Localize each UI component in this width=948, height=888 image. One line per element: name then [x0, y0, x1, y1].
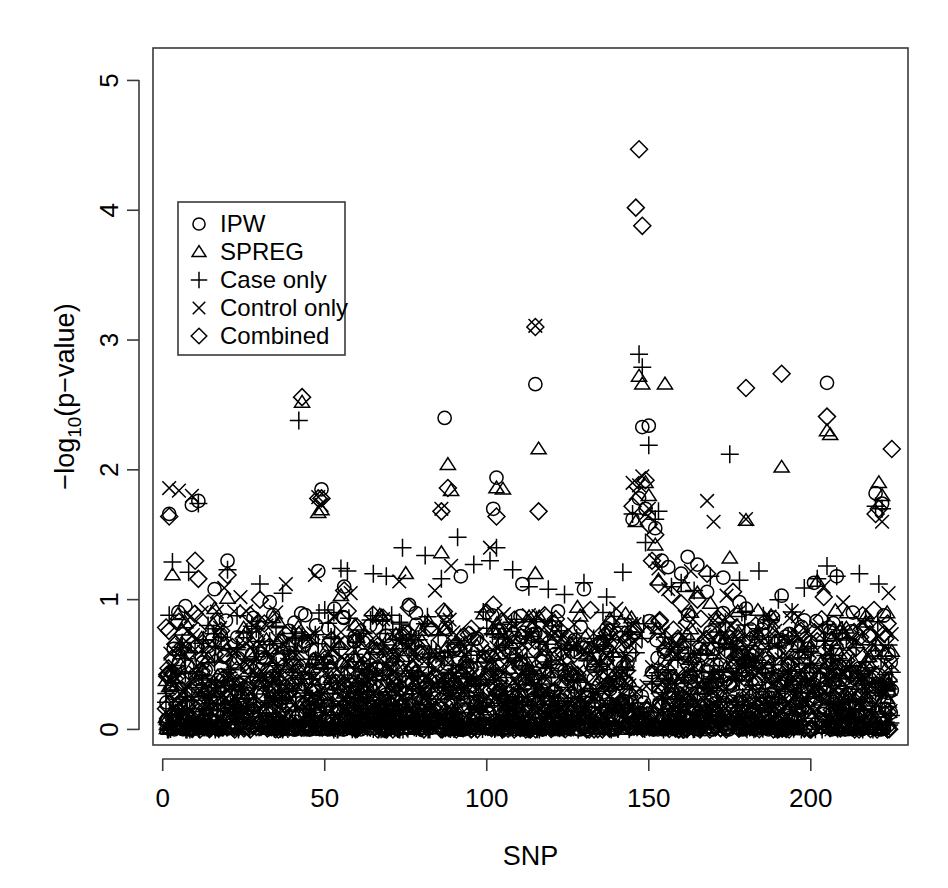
data-point-plus — [180, 563, 198, 581]
x-tick-label: 150 — [627, 783, 670, 813]
x-tick-label: 50 — [310, 783, 339, 813]
data-point-triangle — [657, 377, 672, 389]
data-point-triangle — [398, 567, 413, 579]
y-tick-label: 5 — [94, 73, 124, 87]
data-point-diamond — [634, 217, 651, 234]
legend: IPWSPREGCase onlyControl onlyCombined — [178, 202, 348, 355]
x-tick-label: 200 — [789, 783, 832, 813]
data-point-plus — [432, 570, 450, 588]
data-point-diamond — [815, 589, 832, 606]
data-point-diamond — [488, 508, 505, 525]
data-point-circle — [529, 378, 542, 391]
data-point-plus — [795, 579, 813, 597]
data-point-cross — [279, 577, 293, 591]
data-point-plus — [465, 556, 483, 574]
y-axis-title: −log10(p−value) — [50, 303, 85, 489]
data-point-cross — [428, 584, 442, 598]
x-axis-title: SNP — [503, 841, 559, 871]
data-point-diamond — [530, 503, 547, 520]
data-point-diamond — [158, 619, 175, 636]
data-point-cross — [444, 559, 458, 573]
data-point-triangle — [434, 546, 449, 558]
data-point-circle — [402, 598, 415, 611]
data-point-plus — [637, 534, 655, 552]
data-point-diamond — [527, 319, 544, 336]
data-point-cross — [642, 502, 656, 516]
data-point-triangle — [774, 460, 789, 472]
y-tick-label: 4 — [94, 203, 124, 217]
plot-canvas: 050100150200 012345 IPWSPREGCase onlyCon… — [0, 0, 948, 888]
data-point-circle — [516, 577, 529, 590]
data-point-circle — [884, 656, 897, 669]
data-point-plus — [640, 436, 658, 454]
data-point-diamond — [773, 365, 790, 382]
data-point-circle — [438, 411, 451, 424]
data-point-plus — [594, 603, 612, 621]
data-point-cross — [700, 494, 714, 508]
data-point-triangle — [635, 377, 650, 389]
data-point-triangle — [722, 551, 737, 563]
x-axis: 050100150200 — [155, 759, 832, 813]
y-tick-label: 0 — [94, 722, 124, 736]
data-point-plus — [701, 567, 719, 585]
data-point-cross — [234, 590, 248, 604]
data-point-cross — [885, 627, 899, 641]
legend-label: Combined — [220, 322, 329, 349]
data-point-plus — [539, 580, 557, 598]
x-tick-label: 100 — [465, 783, 508, 813]
data-point-plus — [769, 591, 787, 609]
scatter-plot-figure: 050100150200 012345 IPWSPREGCase onlyCon… — [0, 0, 948, 888]
data-point-plus — [364, 565, 382, 583]
data-point-plus — [504, 561, 522, 579]
data-point-cross — [162, 481, 176, 495]
data-point-diamond — [650, 576, 667, 593]
data-point-diamond — [737, 380, 754, 397]
data-point-plus — [449, 528, 467, 546]
data-point-plus — [733, 603, 751, 621]
data-point-cross — [720, 589, 734, 603]
data-point-cross — [707, 515, 721, 529]
data-point-plus — [377, 567, 395, 585]
data-point-plus — [598, 588, 616, 606]
data-point-plus — [630, 345, 648, 363]
data-point-plus — [614, 563, 632, 581]
data-point-plus — [736, 616, 754, 634]
data-point-triangle — [220, 591, 235, 603]
data-point-triangle — [440, 458, 455, 470]
data-point-circle — [820, 376, 833, 389]
data-point-plus — [818, 557, 836, 575]
data-point-plus — [394, 539, 412, 557]
data-point-diamond — [251, 591, 268, 608]
data-point-circle — [163, 507, 176, 520]
data-point-diamond — [294, 389, 311, 406]
y-tick-label: 2 — [94, 463, 124, 477]
data-point-circle — [295, 607, 308, 620]
data-point-triangle — [677, 580, 692, 592]
data-point-plus — [750, 562, 768, 580]
y-axis: 012345 — [94, 73, 139, 736]
data-point-cross — [172, 484, 186, 498]
y-tick-label: 1 — [94, 592, 124, 606]
data-point-plus — [850, 565, 868, 583]
data-point-diamond — [627, 199, 644, 216]
x-tick-label: 0 — [155, 783, 169, 813]
data-point-diamond — [433, 503, 450, 520]
data-point-diamond — [818, 408, 835, 425]
data-point-plus — [290, 412, 308, 430]
data-point-triangle — [528, 567, 543, 579]
y-tick-label: 3 — [94, 333, 124, 347]
data-point-cross — [217, 581, 231, 595]
data-point-cross — [435, 502, 449, 516]
data-point-plus — [721, 445, 739, 463]
data-point-diamond — [673, 595, 690, 612]
data-point-diamond — [883, 441, 900, 458]
data-point-plus — [520, 578, 538, 596]
data-point-plus — [163, 553, 181, 571]
data-point-plus — [556, 585, 574, 603]
legend-label: Case only — [220, 266, 327, 293]
data-point-diamond — [699, 565, 716, 582]
data-point-cross — [164, 647, 178, 661]
legend-label: IPW — [220, 210, 266, 237]
data-point-diamond — [631, 141, 648, 158]
data-point-triangle — [531, 442, 546, 454]
